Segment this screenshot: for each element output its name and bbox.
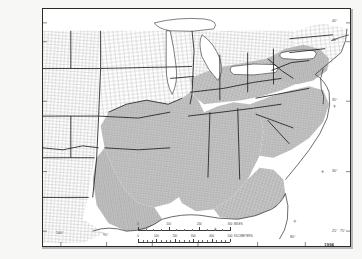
scale-tick <box>169 227 170 230</box>
scale-tick <box>161 240 162 242</box>
scale-tick <box>161 229 162 231</box>
scale-tick <box>146 229 147 231</box>
scale-tick <box>184 229 185 231</box>
scale-km-0: 0 <box>137 235 139 238</box>
scale-km-500: 500 <box>228 235 233 238</box>
scale-tick <box>192 229 193 231</box>
scale-tick <box>189 240 190 242</box>
scale-miles-200: 200 <box>197 223 202 226</box>
scale-tick <box>215 229 216 231</box>
scale-bar: 0 100 200 300 MILES <box>138 226 250 246</box>
scale-tick <box>147 240 148 242</box>
scale-tick <box>230 239 231 242</box>
scale-tick <box>225 240 226 242</box>
scale-tick <box>176 229 177 231</box>
scale-tick <box>216 240 217 242</box>
scale-tick <box>199 227 200 230</box>
longitude-label-95: 95° <box>103 234 108 237</box>
scale-tick <box>179 240 180 242</box>
scale-tick <box>138 239 139 242</box>
scale-tick <box>198 240 199 242</box>
scale-km-100: 100 <box>154 235 159 238</box>
latitude-label-45: 45° <box>332 20 337 23</box>
scale-miles-300: 300 <box>228 223 233 226</box>
map-canvas <box>43 9 350 246</box>
scale-tick <box>222 229 223 231</box>
scale-tick <box>175 239 176 242</box>
scale-km-300: 300 <box>191 235 196 238</box>
frame-shadow-bottom <box>42 247 353 249</box>
scale-miles-100: 100 <box>166 223 171 226</box>
longitude-label-80: 80° <box>290 236 295 239</box>
longitude-label-100: 100° <box>56 232 63 235</box>
scale-tick <box>221 240 222 242</box>
scale-tick <box>212 239 213 242</box>
scale-tick <box>166 240 167 242</box>
scale-tick <box>230 227 231 230</box>
scale-miles-unit: MILES <box>234 223 243 226</box>
scale-tick <box>153 229 154 231</box>
scale-miles-0: 0 <box>137 223 139 226</box>
scale-bar-kilometers: 0 100 200 300 400 500 KILOMETERS <box>138 238 250 247</box>
latitude-label-40: 40° <box>332 39 337 42</box>
frame-shadow-right <box>351 9 353 248</box>
scale-km-unit: KILOMETERS <box>234 235 253 238</box>
latitude-label-30: 30° <box>332 170 337 173</box>
scale-tick <box>143 240 144 242</box>
latitude-label-25: 25° <box>332 230 337 233</box>
scale-tick <box>207 240 208 242</box>
scale-tick <box>202 240 203 242</box>
plate-number: 1994 <box>324 242 334 247</box>
scale-tick <box>170 240 171 242</box>
scale-tick <box>207 229 208 231</box>
scale-km-200: 200 <box>172 235 177 238</box>
map-page: 45° 40° 35° 30° 25° 100° 95° 80° 75° 0 1… <box>0 0 362 259</box>
scale-tick <box>138 227 139 230</box>
scale-tick <box>152 240 153 242</box>
latitude-label-35: 35° <box>332 99 337 102</box>
scale-km-400: 400 <box>209 235 214 238</box>
map-frame <box>42 8 351 247</box>
scale-tick <box>156 239 157 242</box>
longitude-label-75: 75° <box>340 230 345 233</box>
scale-tick <box>184 240 185 242</box>
scale-tick <box>193 239 194 242</box>
